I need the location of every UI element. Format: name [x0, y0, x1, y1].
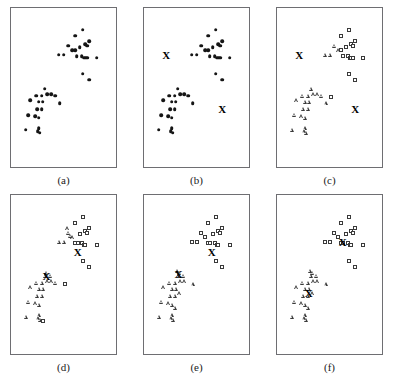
data-point-square [328, 240, 332, 244]
panel-d-plot-area: XX [11, 195, 116, 354]
data-point-triangle [324, 282, 328, 286]
centroid-marker: X [295, 49, 303, 60]
data-point-square [351, 44, 355, 48]
data-point-square [347, 215, 351, 219]
data-point-square [353, 78, 357, 82]
centroid-marker: X [162, 49, 170, 60]
data-point-triangle [300, 281, 304, 285]
data-point-dot [190, 53, 194, 57]
data-point-dot [157, 128, 161, 132]
data-point-square [361, 56, 365, 60]
data-point-triangle [173, 281, 177, 285]
data-point-triangle [28, 285, 32, 289]
data-point-square [353, 226, 357, 230]
data-point-square [85, 231, 89, 235]
data-point-triangle [324, 101, 328, 105]
data-point-square [216, 243, 220, 247]
data-point-square [190, 240, 194, 244]
data-point-triangle [304, 131, 308, 135]
data-point-triangle [24, 315, 28, 319]
data-point-dot [167, 94, 171, 98]
panel-f-frame: XX [276, 194, 383, 355]
data-point-triangle [173, 294, 177, 298]
data-point-dot [191, 101, 195, 105]
data-point-triangle [159, 300, 163, 304]
data-point-square [220, 226, 224, 230]
data-point-triangle [290, 128, 294, 132]
data-point-dot [214, 28, 218, 32]
data-point-triangle [170, 313, 174, 317]
panel-c: XX(c) [276, 7, 383, 190]
data-point-square [332, 231, 336, 235]
data-point-dot [206, 34, 210, 38]
data-point-triangle [177, 291, 181, 295]
data-point-triangle [40, 294, 44, 298]
data-point-triangle [304, 318, 308, 322]
data-point-square [361, 243, 365, 247]
panel-f: XX(f) [276, 194, 383, 377]
data-point-square [83, 243, 87, 247]
data-point-dot [38, 131, 42, 135]
data-point-triangle [35, 294, 39, 298]
data-point-square [218, 231, 222, 235]
data-point-square [95, 243, 99, 247]
centroid-marker: X [218, 104, 226, 115]
data-point-square [353, 39, 357, 43]
data-point-dot [75, 54, 79, 58]
panel-b: XX(b) [143, 7, 250, 190]
data-point-dot [40, 107, 44, 111]
data-point-dot [67, 44, 71, 48]
centroid-marker: X [42, 270, 50, 281]
data-point-dot [186, 94, 190, 98]
data-point-dot [35, 107, 39, 111]
data-point-square [214, 259, 218, 263]
data-point-square [203, 235, 207, 239]
data-point-triangle [306, 281, 310, 285]
centroid-marker: X [339, 236, 347, 247]
data-point-dot [43, 87, 47, 91]
data-point-square [339, 48, 343, 52]
panel-f-caption: (f) [276, 361, 383, 373]
kmeans-figure: (a)XX(b)XX(c)XX(d)XX(e)XX(f) [0, 0, 397, 382]
data-point-dot [53, 94, 57, 98]
data-point-triangle [37, 303, 41, 307]
data-point-triangle [53, 281, 57, 285]
data-point-dot [206, 48, 210, 52]
data-point-triangle [309, 87, 313, 91]
data-point-dot [211, 46, 215, 50]
data-point-dot [208, 54, 212, 58]
data-point-square [347, 259, 351, 263]
data-point-dot [220, 40, 224, 44]
data-point-square [81, 215, 85, 219]
data-point-dot [86, 56, 90, 60]
data-point-square [347, 28, 351, 32]
data-point-dot [37, 116, 41, 120]
data-point-triangle [161, 285, 165, 289]
data-point-dot [171, 131, 175, 135]
data-point-triangle [182, 279, 186, 283]
panel-e: XX(e) [143, 194, 250, 377]
centroid-marker: X [351, 104, 359, 115]
data-point-square [351, 231, 355, 235]
data-point-dot [34, 94, 38, 98]
data-point-dot [228, 56, 232, 60]
data-point-dot [173, 107, 177, 111]
panel-f-plot-area: XX [277, 195, 382, 354]
data-point-triangle [319, 94, 323, 98]
data-point-dot [81, 72, 85, 76]
data-point-triangle [294, 285, 298, 289]
data-point-square [81, 259, 85, 263]
data-point-triangle [301, 107, 305, 111]
data-point-triangle [292, 113, 296, 117]
data-point-square [206, 221, 210, 225]
data-point-square [228, 243, 232, 247]
data-point-square [339, 221, 343, 225]
data-point-dot [219, 56, 223, 60]
centroid-marker: X [305, 288, 313, 299]
data-point-dot [195, 53, 199, 57]
data-point-triangle [332, 44, 336, 48]
data-point-triangle [191, 282, 195, 286]
data-point-dot [73, 48, 77, 52]
data-point-square [78, 232, 82, 236]
data-point-square [220, 265, 224, 269]
